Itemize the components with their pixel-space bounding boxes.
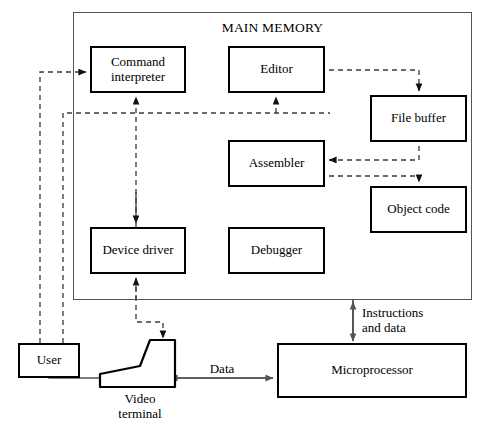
box-file-buffer[interactable]: File buffer <box>370 95 467 142</box>
box-user-label: User <box>35 353 64 368</box>
box-assembler[interactable]: Assembler <box>228 140 325 187</box>
box-editor-label: Editor <box>258 62 295 77</box>
box-user[interactable]: User <box>18 343 80 378</box>
diagram-canvas: MAIN MEMORY <box>0 0 495 445</box>
box-object-code[interactable]: Object code <box>370 186 467 233</box>
label-video-terminal: Video terminal <box>102 392 178 422</box>
box-microprocessor[interactable]: Microprocessor <box>277 343 467 398</box>
box-debugger[interactable]: Debugger <box>228 227 325 274</box>
box-editor[interactable]: Editor <box>228 46 325 93</box>
box-device-driver[interactable]: Device driver <box>90 227 186 274</box>
label-instructions-and-data: Instructions and data <box>362 306 482 336</box>
box-command-interpreter-label: Command interpreter <box>92 55 184 85</box>
box-object-code-label: Object code <box>385 202 451 217</box>
main-memory-title: MAIN MEMORY <box>73 20 472 36</box>
box-device-driver-label: Device driver <box>100 243 175 258</box>
box-microprocessor-label: Microprocessor <box>329 363 415 378</box>
box-file-buffer-label: File buffer <box>389 111 448 126</box>
label-data: Data <box>192 362 252 377</box>
box-debugger-label: Debugger <box>249 243 304 258</box>
box-assembler-label: Assembler <box>247 156 307 171</box>
box-command-interpreter[interactable]: Command interpreter <box>90 46 186 93</box>
video-terminal-shape <box>100 340 175 387</box>
